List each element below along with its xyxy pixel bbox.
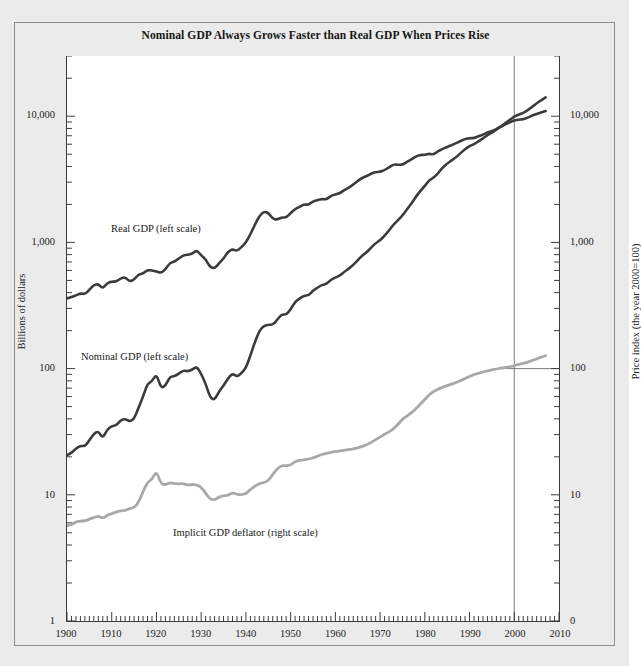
- series-label-nominal-gdp: Nominal GDP (left scale): [81, 351, 188, 362]
- y-axis-left-tick-label: 100: [15, 362, 55, 373]
- y-axis-left-tick-label: 1: [15, 615, 55, 626]
- y-axis-right-tick-label: 10: [570, 489, 630, 500]
- y-axis-right-tick-label: 0: [570, 615, 630, 626]
- x-axis-tick-label: 1900: [41, 628, 91, 639]
- chart-title: Nominal GDP Always Grows Faster than Rea…: [15, 29, 616, 41]
- chart-panel: Nominal GDP Always Grows Faster than Rea…: [14, 22, 615, 646]
- y-axis-right-title: Price index (the year 2000=100): [630, 162, 641, 462]
- x-axis-tick-label: 1920: [131, 628, 181, 639]
- y-axis-right-tick-label: 1,000: [570, 236, 630, 247]
- x-axis-tick-label: 1980: [400, 628, 450, 639]
- x-axis-tick-label: 1990: [445, 628, 495, 639]
- series-label-deflator: Implicit GDP deflator (right scale): [173, 527, 318, 538]
- series-line-1: [67, 97, 546, 455]
- x-axis-tick-label: 1930: [176, 628, 226, 639]
- x-axis-tick-label: 1960: [310, 628, 360, 639]
- x-axis-tick-label: 2000: [490, 628, 540, 639]
- series-label-real-gdp: Real GDP (left scale): [111, 223, 201, 234]
- x-axis-tick-label: 2010: [535, 628, 585, 639]
- x-axis-tick-label: 1970: [355, 628, 405, 639]
- y-axis-right-tick-label: 10,000: [570, 109, 630, 120]
- x-axis-tick-label: 1950: [266, 628, 316, 639]
- series-line-2: [67, 356, 546, 526]
- y-axis-left-tick-label: 10: [15, 489, 55, 500]
- y-axis-left-title: Billions of dollars: [16, 182, 27, 442]
- x-axis-tick-label: 1940: [221, 628, 271, 639]
- y-axis-left-tick-label: 10,000: [15, 109, 55, 120]
- y-axis-right-tick-label: 100: [570, 362, 630, 373]
- x-axis-tick-label: 1910: [86, 628, 136, 639]
- y-axis-left-tick-label: 1,000: [15, 236, 55, 247]
- series-line-0: [67, 111, 546, 298]
